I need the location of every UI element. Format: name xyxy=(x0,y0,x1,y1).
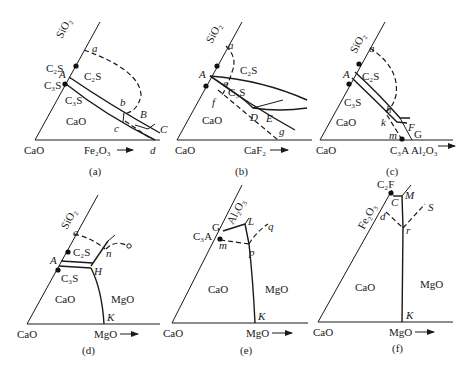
point-g: g xyxy=(279,125,285,137)
point-d: d xyxy=(380,210,386,222)
caption-f: (f) xyxy=(392,342,403,355)
point-S: S xyxy=(428,201,434,213)
region-mgo: MgO xyxy=(265,283,288,295)
point-n: n xyxy=(106,247,112,259)
boundary-L-p xyxy=(245,224,249,244)
boundary-r-K xyxy=(402,228,403,322)
mgo-axis-label: MgO xyxy=(94,328,117,340)
c2s-compound-label: C₂S xyxy=(73,246,90,258)
point-a: a xyxy=(369,42,375,54)
point-m: m xyxy=(389,129,397,141)
sio2-axis-label: SiO₂ xyxy=(53,16,74,40)
point-b: b xyxy=(120,96,126,108)
cao-corner-label: CaO xyxy=(24,144,44,156)
point-a: a xyxy=(228,39,234,51)
caption-a: (a) xyxy=(89,165,102,178)
point-D: D xyxy=(249,111,258,123)
cao-corner-label: CaO xyxy=(175,144,195,156)
fe2o3-axis-label: Fe₂O₃ xyxy=(355,202,378,231)
c2s-point xyxy=(214,63,219,68)
panel-a: SiO₂ C₂S C₃S C₂S C₃S CaO CaO Fe₂O₃ a A b… xyxy=(24,16,168,178)
region-cao: CaO xyxy=(55,293,75,305)
mgo-axis-label: MgO xyxy=(389,326,412,338)
region-c2s: C₂S xyxy=(84,70,101,82)
region-mgo: MgO xyxy=(420,278,443,290)
point-c: c xyxy=(114,122,119,134)
open-circle-marker xyxy=(127,244,131,248)
c3a-point xyxy=(399,136,404,141)
boundary-n-extension xyxy=(108,235,115,241)
point-k: k xyxy=(381,116,387,128)
boundary-c3s xyxy=(59,266,91,268)
c3s-compound-label: C₃S xyxy=(61,272,78,284)
fe2o3-axis-label: Fe₂O₃ xyxy=(84,144,111,156)
panel-b: SiO₂ C₂S C₃S CaO CaO CaF₂ a A e f D E g … xyxy=(175,21,312,178)
point-e: e xyxy=(223,77,228,89)
caption-b: (b) xyxy=(235,165,248,178)
point-m: m xyxy=(219,239,227,251)
c3s-point xyxy=(203,83,208,88)
panel-c: SiO₂ C₂S C₃S CaO CaO C₃A Al₂O₃ a A h k m… xyxy=(316,22,455,178)
point-p: p xyxy=(248,246,255,258)
c3s-point xyxy=(346,81,351,86)
cao-corner-label: CaO xyxy=(316,144,336,156)
point-f: f xyxy=(212,96,217,108)
c3a-compound-label: C₃A xyxy=(390,144,409,156)
caf2-axis-label: CaF₂ xyxy=(244,144,266,156)
region-c2s: C₂S xyxy=(362,70,379,82)
point-M: M xyxy=(404,189,415,201)
point-K: K xyxy=(405,309,414,321)
point-a: a xyxy=(92,42,98,54)
region-cao: CaO xyxy=(336,116,356,128)
region-cao: CaO xyxy=(66,115,86,127)
tie-D-E xyxy=(253,100,283,108)
dashed-p-q xyxy=(249,224,268,244)
point-q: q xyxy=(268,220,274,232)
point-a: a xyxy=(73,226,79,238)
mgo-axis-label: MgO xyxy=(246,327,269,339)
phase-diagram-figure: SiO₂ C₂S C₃S C₂S C₃S CaO CaO Fe₂O₃ a A b… xyxy=(0,0,468,367)
sio2-axis-label: SiO₂ xyxy=(203,21,224,45)
c3s-point xyxy=(62,81,67,86)
point-r: r xyxy=(406,224,411,236)
point-A: A xyxy=(342,68,350,80)
boundary-M-r xyxy=(402,196,403,228)
point-C: C xyxy=(391,196,399,208)
caption-d: (d) xyxy=(82,344,95,357)
point-A: A xyxy=(49,254,57,266)
cao-corner-label: CaO xyxy=(17,328,37,340)
point-B: B xyxy=(140,108,147,120)
boundary-c2s xyxy=(61,261,93,263)
point-A: A xyxy=(198,68,206,80)
region-c3s: C₃S xyxy=(65,94,82,106)
point-E: E xyxy=(265,112,273,124)
point-K: K xyxy=(106,311,115,323)
point-K: K xyxy=(257,310,266,322)
region-c2s: C₂S xyxy=(240,64,257,76)
dashed-d-r xyxy=(386,212,403,228)
region-c3s: C₃S xyxy=(228,86,245,98)
region-mgo: MgO xyxy=(111,293,134,305)
point-L: L xyxy=(247,215,254,227)
sio2-axis-label: SiO₂ xyxy=(347,31,368,55)
c3s-point xyxy=(55,267,60,272)
cao-corner-label: CaO xyxy=(313,326,333,338)
point-h: h xyxy=(386,103,392,115)
caption-e: (e) xyxy=(240,344,253,357)
c2s-point xyxy=(65,249,70,254)
region-c3s: C₃S xyxy=(344,96,361,108)
point-C: C xyxy=(160,123,168,135)
c2s-point xyxy=(356,61,361,66)
caption-c: (c) xyxy=(386,165,399,178)
cao-corner-label: CaO xyxy=(163,327,183,339)
al2o3-axis-label: Al₂O₃ xyxy=(224,197,247,226)
al2o3-axis-label: Al₂O₃ xyxy=(411,144,438,156)
c3a-compound-label: C₃A xyxy=(193,230,212,242)
c2f-compound-label: C₂F xyxy=(377,178,394,190)
point-G: G xyxy=(212,221,220,233)
c2s-point xyxy=(73,63,78,68)
panel-f: Fe₂O₃ C₂F CaO MgO CaO MgO C M S d r K (f… xyxy=(313,178,453,355)
point-H: H xyxy=(93,265,103,277)
c3s-compound-label: C₃S xyxy=(44,79,61,91)
region-cao: CaO xyxy=(355,281,375,293)
